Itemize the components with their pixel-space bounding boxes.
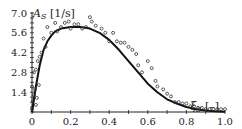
- data-point: [137, 64, 140, 67]
- data-point: [63, 21, 66, 24]
- data-point: [46, 26, 49, 29]
- x-tick-label: 0: [29, 116, 35, 127]
- data-point: [150, 67, 153, 70]
- x-tick-label: 1.0: [217, 116, 233, 127]
- data-point: [156, 85, 159, 88]
- data-point: [88, 16, 91, 19]
- y-tick-label: 5.6: [11, 27, 27, 38]
- data-point: [50, 31, 53, 34]
- x-tick-label: 0.4: [101, 116, 117, 127]
- data-point: [112, 31, 115, 34]
- data-point: [154, 79, 157, 82]
- data-point: [67, 20, 70, 23]
- ticks: [30, 13, 225, 114]
- data-point: [141, 71, 144, 74]
- data-point: [37, 84, 40, 87]
- y-tick-label: 2.8: [11, 67, 27, 78]
- data-point: [54, 21, 57, 24]
- data-point: [170, 95, 173, 98]
- data-point: [34, 68, 37, 71]
- data-point: [34, 103, 37, 106]
- chart: 00.20.40.60.81.01.42.84.25.67.0 AS [1/s]…: [0, 0, 242, 129]
- data-point: [77, 23, 80, 26]
- data-point: [73, 23, 76, 26]
- x-axis-label: ξS [–]: [190, 100, 219, 114]
- data-point: [220, 108, 223, 111]
- data-point: [94, 24, 97, 27]
- x-tick-label: 0.2: [63, 116, 79, 127]
- data-point: [104, 31, 107, 34]
- data-point: [146, 60, 149, 63]
- data-point: [185, 102, 188, 105]
- x-tick-label: 0.6: [140, 116, 156, 127]
- y-tick-label: 1.4: [11, 87, 27, 98]
- y-tick-label: 4.2: [11, 47, 27, 58]
- data-point: [36, 60, 39, 63]
- data-point: [127, 45, 130, 48]
- y-axis-label: AS [1/s]: [32, 7, 75, 21]
- x-tick-label: 0.8: [178, 116, 194, 127]
- y-tick-label: 7.0: [11, 8, 27, 19]
- data-point: [135, 53, 138, 56]
- data-point: [35, 96, 38, 99]
- data-point: [123, 41, 126, 44]
- data-point: [38, 55, 41, 58]
- data-point: [115, 40, 118, 43]
- data-point: [90, 20, 93, 23]
- data-point: [131, 48, 134, 51]
- data-point: [119, 41, 122, 44]
- data-point: [42, 37, 45, 40]
- data-point: [166, 92, 169, 95]
- data-point: [162, 88, 165, 91]
- data-point: [100, 27, 103, 30]
